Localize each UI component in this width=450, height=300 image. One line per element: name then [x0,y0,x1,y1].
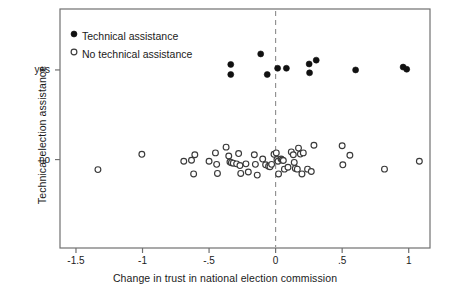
data-point [226,153,232,159]
legend-markers-group [71,31,77,55]
data-point [252,161,258,167]
data-point [258,51,264,57]
data-point [311,142,317,148]
data-point [189,157,195,163]
data-points-group [95,51,422,178]
data-point [313,57,319,63]
data-point [294,166,300,172]
data-point [191,171,197,177]
data-point [291,160,297,166]
data-point [269,161,275,167]
x-tick-label: -1 [123,255,163,266]
data-point [260,156,266,162]
data-point [339,143,345,149]
data-point [213,150,219,156]
series-no-technical-assistance [95,142,422,178]
data-point [275,65,281,71]
legend-label-technical-assistance: Technical assistance [82,30,178,42]
y-tick-label: no [10,154,50,165]
data-point [285,164,291,170]
data-point [276,171,282,177]
data-point [290,152,296,158]
data-point [382,166,388,172]
data-point [299,171,305,177]
series-technical-assistance [228,51,410,78]
data-point [280,158,286,164]
x-axis-title: Change in trust in national election com… [0,272,450,284]
data-point [228,71,234,77]
data-point [215,171,221,177]
data-point [243,161,249,167]
legend-marker-open-circle-icon [71,49,77,55]
axes-group [55,9,430,253]
data-point [273,150,279,156]
data-point [236,151,242,157]
x-tick-label: -.5 [189,255,229,266]
legend-marker-filled-circle-icon [71,31,77,37]
data-point [251,152,257,158]
data-point [296,145,302,151]
data-point [416,158,422,164]
y-axis-title: Technical election assistance [36,15,48,255]
data-point [139,151,145,157]
data-point [254,172,260,178]
data-point [95,167,101,173]
data-point [237,163,243,169]
data-point [306,61,312,67]
data-point [228,61,234,67]
data-point [340,162,346,168]
data-point [353,67,359,73]
x-tick-label: 1 [389,255,429,266]
data-point [192,152,198,158]
data-point [245,169,251,175]
data-point [307,70,313,76]
x-tick-label: -1.5 [56,255,96,266]
data-point [238,171,244,177]
data-point [404,66,410,72]
y-tick-label: yes [10,64,50,75]
data-point [223,144,229,150]
data-point [300,150,306,156]
x-tick-label: .5 [322,255,362,266]
data-point [347,152,353,158]
x-tick-label: 0 [256,255,296,266]
plot-frame [60,9,430,248]
data-point [214,161,220,167]
data-point [181,158,187,164]
legend-label-no-technical-assistance: No technical assistance [82,48,192,60]
data-point [308,169,314,175]
data-point [264,71,270,77]
data-point [283,65,289,71]
scatter-plot-figure: Change in trust in national election com… [0,0,450,300]
data-point [206,158,212,164]
